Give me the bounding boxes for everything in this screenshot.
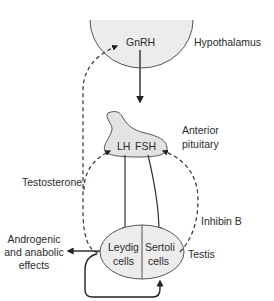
leydig-label-line1: Leydig	[108, 241, 139, 253]
sertoli-label-line1: Sertoli	[145, 241, 175, 253]
effects-label-line1: Androgenic	[7, 233, 60, 245]
testosterone-feedback-pituitary	[84, 151, 110, 190]
sertoli-label-line2: cells	[148, 255, 169, 267]
hpg-axis-diagram: GnRH Hypothalamus LH FSH Anterior pituit…	[0, 0, 274, 301]
testis-label: Testis	[188, 248, 215, 260]
inhibin-label: Inhibin B	[201, 215, 242, 227]
pituitary-label-line1: Anterior	[182, 124, 219, 136]
effects-label-line3: effects	[19, 259, 50, 271]
hypothalamus-label: Hypothalamus	[194, 36, 261, 48]
fsh-label: FSH	[135, 140, 156, 152]
leydig-label-line2: cells	[113, 255, 134, 267]
effects-label-line2: and anabolic	[4, 246, 64, 258]
lh-label: LH	[117, 140, 130, 152]
fsh-arrow	[148, 155, 159, 232]
pituitary-label-line2: pituitary	[182, 138, 220, 150]
testosterone-label: Testosterone	[22, 176, 82, 188]
gnrh-label: GnRH	[126, 36, 155, 48]
